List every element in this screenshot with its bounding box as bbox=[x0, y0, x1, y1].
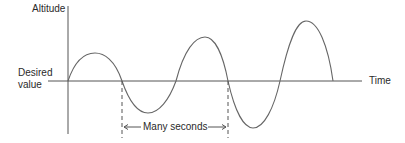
period-label: Many seconds bbox=[143, 121, 207, 132]
y-axis-label: Altitude bbox=[32, 3, 65, 14]
altitude-oscillation-curve bbox=[68, 21, 333, 128]
x-axis-label: Time bbox=[369, 75, 391, 86]
baseline-label-line2: value bbox=[18, 79, 42, 90]
baseline-label-line1: Desired bbox=[18, 67, 52, 78]
